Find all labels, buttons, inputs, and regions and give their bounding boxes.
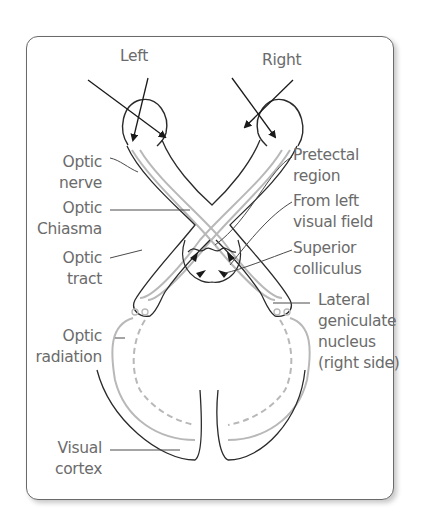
superior-colliculus-shape	[183, 240, 241, 282]
label-pretectal-region: Pretectal region	[293, 145, 359, 187]
label-left: Left	[120, 46, 148, 67]
label-from-left-visual-field: From left visual field	[293, 191, 373, 233]
optic-radiation-dashed	[134, 320, 292, 425]
label-lateral-geniculate-nucleus: Lateral geniculate nucleus (right side)	[318, 290, 400, 374]
label-optic-tract: Optic tract	[50, 248, 102, 290]
optic-fibers	[132, 150, 290, 300]
optic-radiation	[112, 318, 309, 440]
label-right: Right	[262, 50, 301, 71]
label-optic-radiation: Optic radiation	[30, 326, 102, 368]
label-optic-nerve: Optic nerve	[50, 152, 102, 194]
label-superior-colliculus: Superior colliculus	[293, 238, 361, 280]
visual-cortex-outline	[97, 370, 305, 460]
label-visual-cortex: Visual cortex	[40, 438, 102, 480]
leader-lines	[110, 157, 310, 450]
colliculus-arrows	[190, 252, 235, 278]
label-optic-chiasma: Optic Chiasma	[30, 198, 102, 240]
